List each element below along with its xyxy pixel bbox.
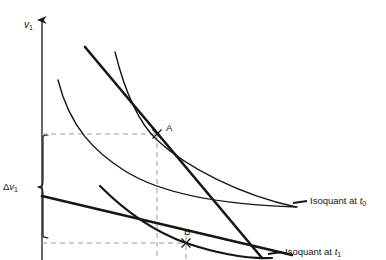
- legend-t1-text: Isoquant at: [285, 246, 335, 257]
- legend-t0-text: Isoquant at: [310, 195, 360, 206]
- legend-isoquant-t1: Isoquant at t1: [285, 247, 341, 258]
- delta-sub: 1: [14, 186, 18, 193]
- figure-root: v1 Δv1 A B Isoquant at t0 Isoquant at t1: [0, 0, 386, 260]
- point-label-B: B: [184, 227, 190, 237]
- curve-isoquant-t0: [58, 80, 297, 207]
- legend-leader-t0: [293, 201, 307, 203]
- delta-v1-label: Δv1: [3, 182, 18, 193]
- legend-isoquant-t0: Isoquant at t0: [310, 196, 366, 207]
- y-axis-label-sub: 1: [29, 24, 33, 31]
- delta-brace: [38, 135, 48, 238]
- guide-lines: [42, 134, 190, 260]
- legend-t1-sub: 1: [337, 251, 341, 258]
- legend-t0-sub: 0: [362, 200, 366, 207]
- legend-leader-t1: [268, 252, 282, 254]
- y-axis-label: v1: [24, 20, 33, 31]
- point-label-A: A: [166, 123, 172, 133]
- curve-isoquant-t1-upper: [115, 52, 296, 207]
- figure-canvas: [0, 0, 386, 260]
